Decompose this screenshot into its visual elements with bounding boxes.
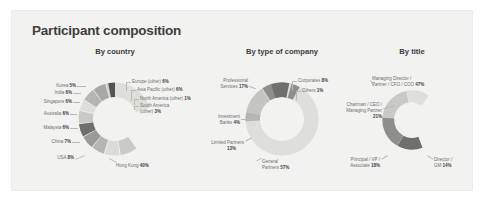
label-australia: Australia 6%: [20, 111, 69, 117]
slide-canvas: Participant composition By country: [0, 0, 484, 201]
leader-europe-other-stem: [126, 82, 127, 91]
leader-corporates: [292, 81, 297, 82]
leader-asia-pacific-other: [131, 90, 136, 91]
leader-corporates-stem: [292, 81, 293, 91]
donut-svg-by-title: [373, 81, 451, 159]
leader-north-america-stem: [134, 99, 135, 105]
chart-panel-by-title: By title: [352, 47, 472, 189]
label-chairman-line3: 21%: [316, 114, 382, 120]
label-general-partners-line2: Partners 57%: [262, 165, 322, 171]
leader-korea: [77, 86, 86, 87]
chart-title-by-type: By type of company: [202, 47, 362, 56]
participant-composition-card: Participant composition By country: [12, 11, 472, 190]
leader-malaysia: [70, 128, 78, 129]
label-managing-director-line2: Partner / CFO / COO 47%: [372, 82, 472, 88]
label-india: India 6%: [20, 90, 72, 96]
chart-title-by-country: By country: [20, 47, 210, 56]
leader-singapore: [73, 102, 80, 103]
leader-north-america-other: [134, 99, 139, 100]
chart-title-by-title: By title: [352, 47, 472, 56]
label-europe-other: Europe (other) 6%: [132, 79, 208, 85]
leader-south-america-other: [134, 106, 139, 107]
leader-asia-pacific-stem: [131, 90, 132, 101]
label-usa: USA 8%: [20, 155, 74, 161]
leader-others: [296, 91, 301, 92]
label-hong-kong: Hong Kong 40%: [116, 163, 186, 169]
leader-australia: [70, 114, 77, 115]
page-title: Participant composition: [32, 23, 181, 38]
label-limited-partners-line2: 13%: [192, 146, 236, 152]
leader-china: [72, 142, 80, 143]
leader-south-america-stem: [134, 106, 135, 110]
label-korea: Korea 5%: [20, 83, 76, 89]
label-director-gm-line2: GM 14%: [434, 163, 484, 169]
leader-india: [73, 93, 81, 94]
label-principal-line2: Associate 18%: [324, 163, 380, 169]
chart-panel-by-country: By country: [20, 47, 210, 189]
label-china: China 7%: [20, 139, 71, 145]
label-malaysia: Malaysia 6%: [20, 125, 69, 131]
leader-europe-other: [126, 82, 131, 83]
leader-investment-banks: [241, 119, 250, 120]
label-investment-banks-line2: Banks 4%: [196, 120, 240, 126]
leader-others-stem: [296, 91, 297, 100]
label-singapore: Singapore 6%: [20, 99, 72, 105]
donut-chart-by-title: [373, 81, 451, 159]
label-professional-services-line2: Services 17%: [200, 84, 248, 90]
